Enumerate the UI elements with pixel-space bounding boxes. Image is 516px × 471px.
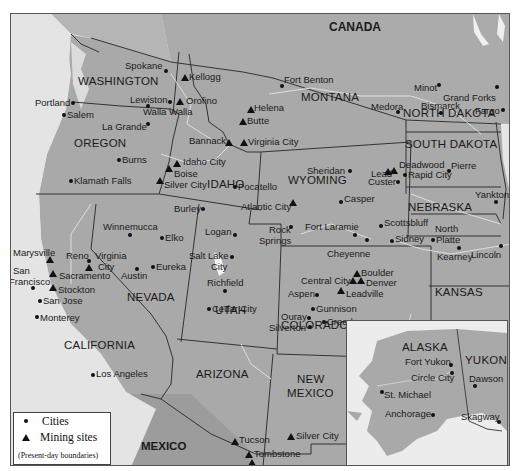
city-label-salt-lake-line2: City (211, 262, 227, 272)
inset-dot-circle-city (450, 371, 454, 375)
legend-cities-label: Cities (42, 415, 69, 427)
inset-label-dawson: Dawson (469, 374, 503, 384)
inset-dot-dawson (473, 384, 477, 388)
city-dot-fargo (501, 108, 505, 112)
mine-marker-leadville (337, 287, 345, 294)
mine-label-silver-city-nm: Silver City (296, 431, 339, 441)
city-label-rock-springs-line1: Rock (269, 225, 291, 235)
state-label-new-mexico-line1: NEW (297, 374, 324, 386)
city-label-rock-springs-line2: Springs (259, 236, 291, 246)
inset-label-skagway: Skagway (461, 412, 500, 422)
city-label-north-platte-line2: Platte (436, 235, 460, 245)
mine-label-helena: Helena (254, 103, 284, 113)
city-dot-custer (396, 180, 400, 184)
legend-row-cities: Cities (20, 415, 69, 427)
city-dot-elko (160, 236, 164, 240)
mine-marker-atlantic-city (289, 199, 297, 206)
city-dot-casper (339, 200, 343, 204)
city-dot-scottsbluff (379, 224, 383, 228)
mine-marker-kellogg (181, 74, 189, 81)
city-label-san-jose: San Jose (43, 296, 83, 306)
city-label-casper: Casper (344, 194, 375, 204)
city-dot-salem (62, 113, 66, 117)
state-label-nevada: NEVADA (127, 292, 175, 304)
city-label-portland: Portland (35, 98, 70, 108)
city-label-minot: Minot (414, 83, 437, 93)
mine-marker-butte (239, 118, 247, 125)
city-label-cheyenne: Cheyenne (327, 249, 370, 259)
mine-label-deadwood: Deadwood (399, 160, 444, 170)
city-label-gunnison: Gunnison (316, 304, 357, 314)
city-label-fort-laramie: Fort Laramie (305, 222, 359, 232)
mine-label-sacramento: Sacramento (59, 271, 110, 281)
city-dot-spokane (164, 69, 168, 73)
map-legend: Cities Mining sites (Present-day boundar… (13, 412, 111, 465)
city-dot-medora (396, 110, 400, 114)
legend-note: (Present-day boundaries) (18, 451, 98, 460)
state-label-wyoming: WYOMING (288, 175, 347, 187)
city-dot-eureka (151, 265, 155, 269)
city-label-san-francisco-line1: San (13, 266, 30, 276)
city-label-scottsbluff: Scottsbluff (384, 218, 428, 228)
city-dot-rapid-city (403, 173, 407, 177)
city-dot-lincoln (499, 244, 503, 248)
mine-marker-silver-city-nm (287, 433, 295, 440)
city-label-sheridan: Sheridan (307, 166, 345, 176)
city-dot-sidney (390, 239, 394, 243)
city-label-north-platte-line1: North (435, 224, 458, 234)
mine-marker-deadwood (390, 167, 398, 174)
city-label-ouray: Ouray (281, 312, 307, 322)
country-label-mexico: MEXICO (141, 441, 186, 453)
city-label-silverton: Silverton (269, 323, 306, 333)
mine-label-bannack: Bannack (189, 136, 226, 146)
city-label-walla-walla: Walla Walla (143, 107, 192, 117)
city-label-richfield: Richfield (207, 278, 243, 288)
mine-marker-bannack (225, 139, 233, 146)
inset-dot-fort-yukon (449, 363, 453, 367)
city-dot-logan (233, 233, 237, 237)
city-dot-cedar-city (207, 307, 211, 311)
city-label-austin: Austin (121, 271, 147, 281)
city-label-monterey: Monterey (40, 313, 80, 323)
mine-marker-tucson (231, 438, 239, 445)
city-dot-richfield (223, 289, 227, 293)
city-dot-walla-walla (168, 100, 172, 104)
city-dot-burley (201, 207, 205, 211)
city-label-sidney: Sidney (395, 234, 424, 244)
mine-marker-silver-city-id (156, 177, 164, 184)
city-dot-yankton (494, 200, 498, 204)
city-label-fort-benton: Fort Benton (284, 75, 334, 85)
mine-label-leadville: Leadville (346, 289, 384, 299)
city-dot-aspen (315, 293, 319, 297)
inset-label-circle-city: Circle City (411, 373, 454, 383)
mine-marker-boulder (353, 270, 361, 277)
city-dot-sheridan (348, 169, 352, 173)
legend-mining-sites-label: Mining sites (40, 431, 97, 443)
inset-label-alaska: ALASKA (402, 342, 448, 354)
state-label-kansas: KANSAS (435, 287, 483, 299)
city-label-lewiston: Lewiston (130, 95, 168, 105)
city-label-klamath-falls: Klamath Falls (74, 176, 132, 186)
city-dot-north-platte (431, 238, 435, 242)
city-label-burns: Burns (122, 155, 147, 165)
city-dot-san-francisco (31, 286, 35, 290)
mine-label-stockton: Stockton (58, 285, 95, 295)
city-label-lincoln: Lincoln (471, 250, 501, 260)
state-label-south-dakota: SOUTH DAKOTA (405, 139, 497, 151)
city-dot-ouray (307, 316, 311, 320)
legend-mining-triangle-icon (22, 434, 30, 441)
mine-label-boise: Boise (174, 169, 198, 179)
state-label-washington: WASHINGTON (78, 76, 159, 88)
state-label-arizona: ARIZONA (196, 369, 249, 381)
inset-dot-anchorage (431, 413, 435, 417)
city-dot-portland (71, 101, 75, 105)
city-label-winnemucca: Winnemucca (103, 222, 158, 232)
city-label-salt-lake-line1: Salt Lake (189, 251, 229, 261)
city-label-cedar-city: Cedar City (212, 304, 257, 314)
mine-label-denver: Denver (366, 278, 397, 288)
state-label-nebraska: NEBRASKA (408, 202, 472, 214)
mine-marker-marysville (46, 256, 54, 263)
city-dot-los-angeles (91, 373, 95, 377)
city-dot-san-jose (38, 299, 42, 303)
city-label-yankton: Yankton (475, 190, 509, 200)
